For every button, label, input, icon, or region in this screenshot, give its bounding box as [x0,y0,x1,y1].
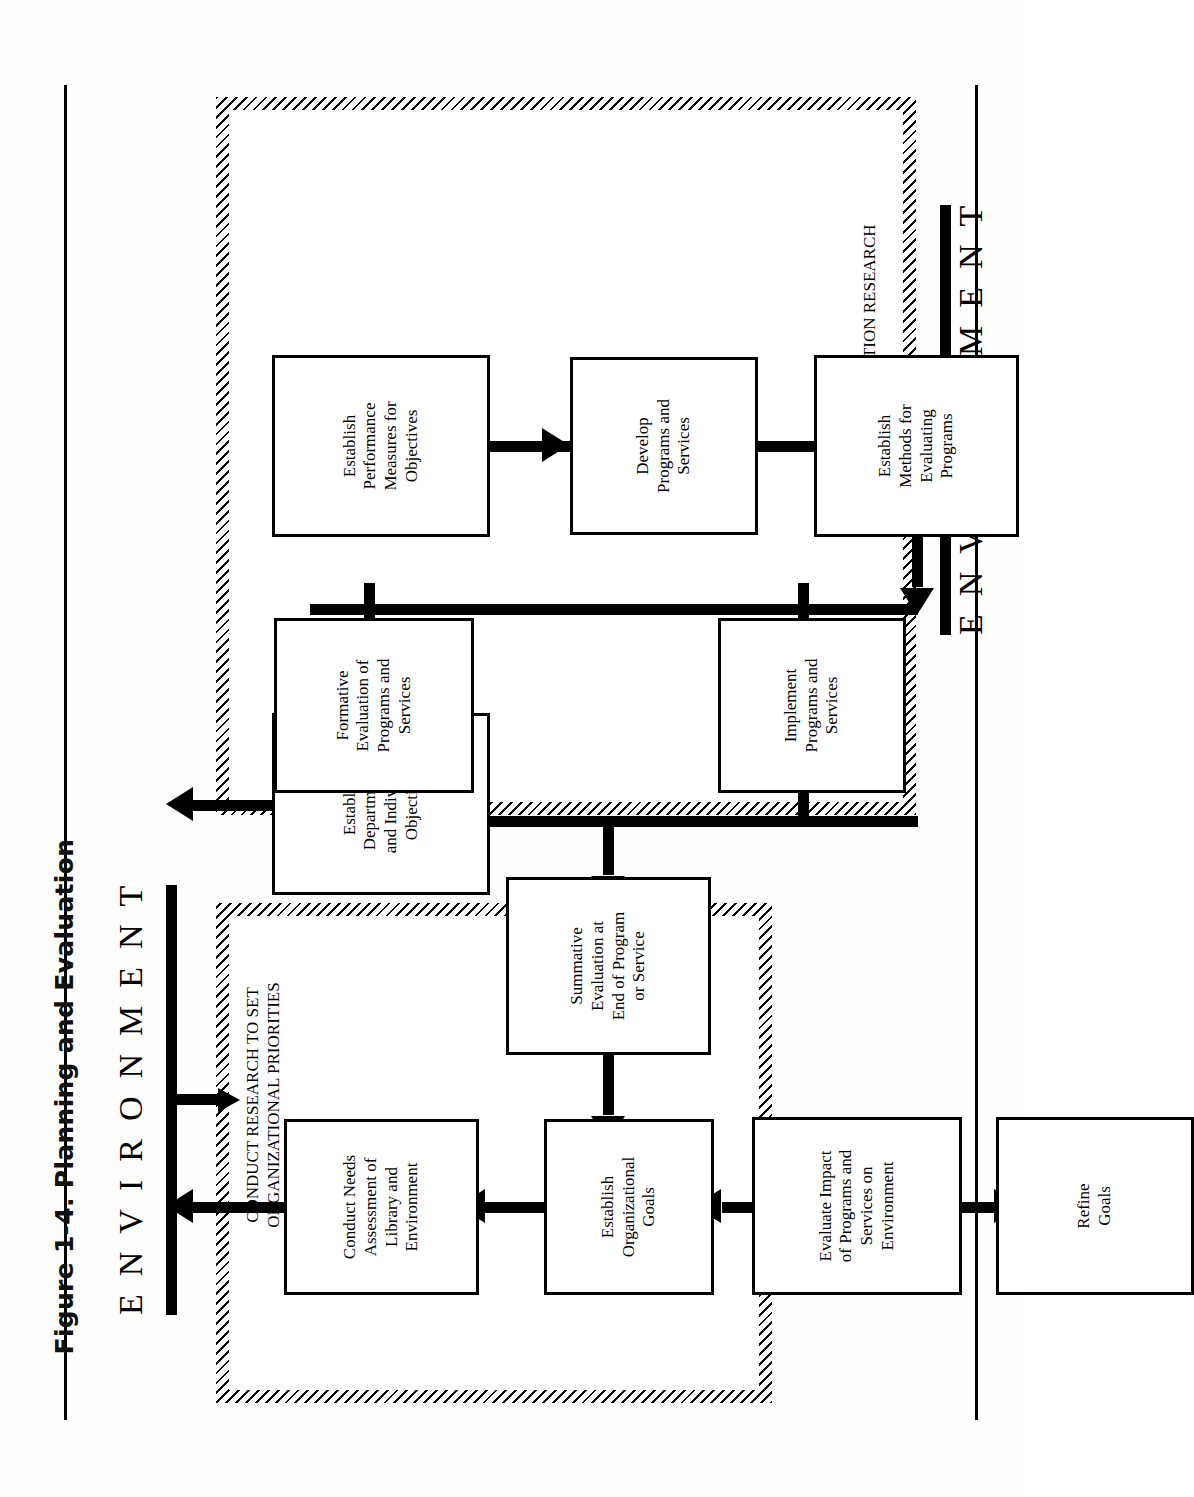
edge-summative-to-impact [603,1053,614,1115]
node-label: Refine Goals [1074,1183,1115,1228]
node-refine-goals[interactable]: Refine Goals [996,1117,1194,1295]
node-label: Conduct Needs Assessment of Library and … [340,1154,423,1258]
edge-split-to-implement [798,583,809,623]
node-formative-evaluation[interactable]: Formative Evaluation of Programs and Ser… [274,618,474,793]
node-label: Develop Programs and Services [633,399,695,493]
node-establish-organizational-goals[interactable]: Establish Organizational Goals [544,1119,714,1295]
node-summative-evaluation[interactable]: Summative Evaluation at End of Program o… [506,877,711,1055]
edge-measures-to-develop-arrowhead [542,428,569,462]
node-label: Evaluate Impact of Programs and Services… [816,1149,899,1261]
node-label: Summative Evaluation at End of Program o… [567,911,650,1020]
node-establish-performance-measures[interactable]: Establish Performance Measures for Objec… [272,355,490,537]
edge-needs-to-objectives-stem [192,1202,286,1213]
environment-label-left: ENVIRONMENT [112,867,150,1314]
node-develop-programs-and-services[interactable]: Develop Programs and Services [570,357,758,535]
environment-left-stem [176,1094,222,1105]
edge-objectives-to-measures-arrowhead [166,787,193,821]
edge-goals-to-needs [484,1202,546,1213]
environment-left-arrowhead [218,1088,240,1112]
node-conduct-needs-assessment[interactable]: Conduct Needs Assessment of Library and … [284,1119,479,1295]
node-label: Establish Methods for Evaluating Program… [875,404,958,488]
edge-split-spine [310,604,918,615]
node-label: Implement Programs and Services [781,658,843,752]
region-conduct-research-label: CONDUCT RESEARCH TO SET ORGANIZATIONAL P… [242,945,285,1265]
node-label: Establish Performance Measures for Objec… [340,401,423,490]
node-label: Formative Evaluation of Programs and Ser… [333,658,416,752]
edge-merge-to-summative [603,819,614,875]
node-label: Establish Organizational Goals [598,1156,660,1257]
flowchart-canvas: CONDUCT RESEARCH TO SET ORGANIZATIONAL P… [114,75,994,1415]
edge-methods-out-arrowhead [900,588,934,615]
edge-split-to-formative [364,583,375,623]
node-implement-programs-and-services[interactable]: Implement Programs and Services [718,618,906,793]
edge-objectives-to-measures [192,800,276,811]
edge-methods-out-stem [912,531,923,587]
edge-needs-to-objectives-arrowhead [166,1189,193,1223]
figure-caption: Figure 1-4. Planning and Evaluation [50,735,79,1355]
node-establish-methods-evaluating[interactable]: Establish Methods for Evaluating Program… [814,355,1019,537]
node-evaluate-impact[interactable]: Evaluate Impact of Programs and Services… [752,1117,962,1295]
